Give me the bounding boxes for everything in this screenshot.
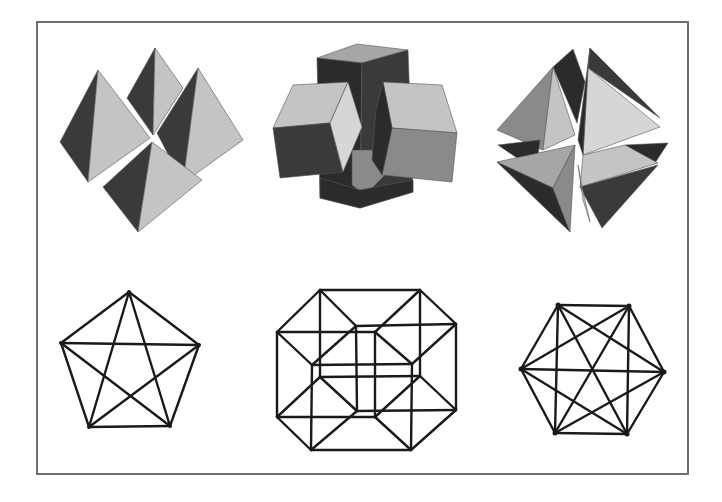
k6-graph-figure — [521, 305, 664, 434]
k5-graph-figure — [61, 292, 199, 427]
tesseract-figure — [277, 290, 456, 450]
wedge-upper-right — [578, 48, 660, 155]
illustration-plate — [0, 0, 722, 502]
interlocking-prisms-figure — [273, 44, 457, 208]
right-prism — [372, 82, 457, 182]
tetrahedra-cluster-figure — [60, 48, 243, 232]
wedge-lower-left — [497, 145, 575, 232]
stellated-compound-figure — [497, 48, 668, 232]
